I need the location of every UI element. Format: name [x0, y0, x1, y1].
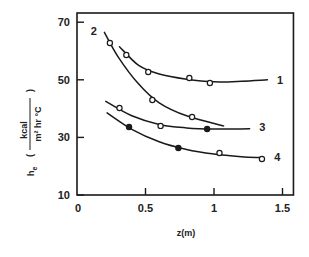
- curve-label-2: 2: [91, 25, 97, 37]
- curve-labels: 1234: [91, 25, 283, 163]
- y-axis-paren-open: (: [25, 154, 35, 157]
- curve-label-4: 4: [274, 151, 281, 163]
- curve-4: [107, 113, 262, 158]
- filled-circle-marker: [176, 145, 181, 150]
- y-tick-label: 50: [58, 74, 70, 86]
- y-axis-symbol: he: [26, 167, 38, 177]
- open-circle-marker: [217, 150, 222, 155]
- filled-circle-marker: [205, 126, 210, 131]
- curve-label-1: 1: [277, 74, 283, 86]
- y-tick-label: 30: [58, 131, 70, 143]
- y-tick-label: 10: [58, 189, 70, 201]
- open-circle-marker: [189, 114, 194, 119]
- x-axis-title: z(m): [177, 228, 196, 238]
- y-axis-unit-numerator: kcal: [19, 121, 29, 139]
- x-tick-label: 0.5: [138, 202, 153, 214]
- curve-label-3: 3: [259, 121, 265, 133]
- curve-2: [104, 32, 223, 126]
- x-tick-label: 0: [75, 202, 81, 214]
- y-axis-unit-denominator: m² hr °C: [33, 106, 43, 142]
- open-circle-marker: [207, 80, 212, 85]
- y-axis-paren-close: ): [25, 89, 35, 92]
- x-tick-label: 1: [211, 202, 217, 214]
- y-tick-label: 70: [58, 16, 70, 28]
- open-circle-marker: [117, 105, 122, 110]
- y-axis-ticks: 10305070: [58, 16, 84, 201]
- open-circle-marker: [146, 69, 151, 74]
- open-circle-marker: [158, 123, 163, 128]
- open-circle-marker: [150, 97, 155, 102]
- x-axis-ticks: 00.511.5: [75, 188, 290, 214]
- open-circle-marker: [107, 40, 112, 45]
- open-circle-marker: [187, 75, 192, 80]
- chart-figure: 10305070 00.511.5 1234 z(m) he ( kcal m²…: [0, 0, 309, 257]
- filled-circle-marker: [126, 124, 131, 129]
- x-tick-label: 1.5: [275, 202, 290, 214]
- open-circle-marker: [124, 52, 129, 57]
- y-axis-title: he ( kcal m² hr °C ): [19, 89, 43, 176]
- data-curves: [104, 32, 267, 157]
- open-circle-marker: [259, 156, 264, 161]
- curve-1: [120, 47, 268, 82]
